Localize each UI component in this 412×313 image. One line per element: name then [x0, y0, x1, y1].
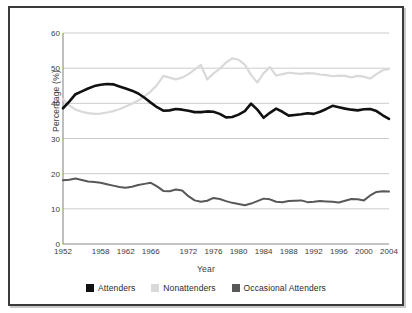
legend-label: Nonattenders — [163, 283, 215, 293]
x-tick-label: 2004 — [380, 247, 398, 256]
legend-item: Occasional Attenders — [232, 283, 326, 293]
gridlines — [63, 33, 389, 209]
series-line-occasional-attenders — [63, 179, 389, 206]
x-tick-label: 1966 — [142, 247, 160, 256]
y-tick-label: 20 — [34, 169, 60, 178]
legend-item: Attenders — [86, 283, 135, 293]
series-line-nonattenders — [63, 58, 389, 114]
x-tick-label: 1962 — [117, 247, 135, 256]
chart-figure: 0102030405060 Percentage (%) Year Attend… — [0, 0, 412, 313]
y-tick-label: 10 — [34, 204, 60, 213]
x-axis-label: Year — [0, 264, 412, 274]
x-tick-label: 1952 — [54, 247, 72, 256]
series-line-attenders — [63, 84, 389, 119]
x-tick-label: 1992 — [305, 247, 323, 256]
legend-swatch-icon — [151, 284, 159, 292]
legend-swatch-icon — [86, 284, 94, 292]
legend-label: Occasional Attenders — [244, 283, 326, 293]
x-tick-label: 1980 — [230, 247, 248, 256]
y-tick-label: 60 — [34, 29, 60, 38]
x-tick-label: 1988 — [280, 247, 298, 256]
chart-legend: AttendersNonattendersOccasional Attender… — [0, 283, 412, 293]
legend-swatch-icon — [232, 284, 240, 292]
legend-item: Nonattenders — [151, 283, 215, 293]
x-tick-label: 1984 — [255, 247, 273, 256]
x-tick-label: 2000 — [355, 247, 373, 256]
x-tick-label: 1996 — [330, 247, 348, 256]
x-tick-label: 1972 — [179, 247, 197, 256]
legend-label: Attenders — [98, 283, 135, 293]
data-series-group — [63, 58, 389, 205]
x-tick-label: 1976 — [205, 247, 223, 256]
x-tick-label: 1958 — [92, 247, 110, 256]
y-axis-label: Percentage (%) — [51, 59, 61, 143]
